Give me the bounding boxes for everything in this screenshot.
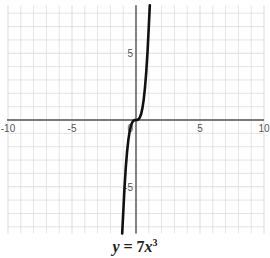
svg-text:5: 5: [197, 123, 203, 134]
caption-eq: = 7: [119, 238, 144, 255]
graph-canvas: -10-55105-50: [0, 0, 270, 235]
svg-text:10: 10: [258, 123, 270, 134]
svg-text:-5: -5: [68, 123, 77, 134]
svg-text:5: 5: [127, 48, 133, 59]
equation-caption: y = 7x3: [0, 237, 270, 256]
caption-var: x: [145, 238, 153, 255]
caption-exp: 3: [153, 237, 158, 248]
svg-text:-10: -10: [1, 123, 16, 134]
